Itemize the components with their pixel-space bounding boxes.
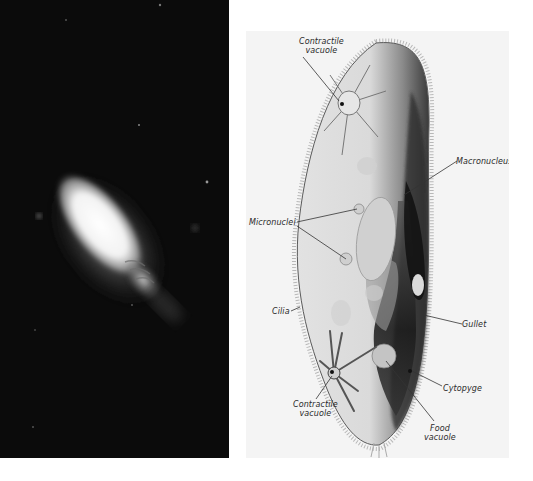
- label-cilia: Cilia: [272, 307, 290, 316]
- label-macronucleus: Macronucleus: [456, 157, 509, 166]
- label-micronuclei: Micronuclei: [249, 218, 296, 227]
- label-gullet: Gullet: [462, 320, 486, 329]
- labeled-diagram-panel: Contractile vacuole Macronucleus Micronu…: [246, 31, 509, 458]
- paramecium-drawing: [246, 31, 509, 458]
- photomicrograph-panel: [0, 0, 229, 458]
- paramecium-photo: [0, 0, 229, 458]
- cytopyge: [408, 369, 412, 373]
- label-food-vacuole: Food vacuole: [424, 424, 456, 442]
- label-cytopyge: Cytopyge: [443, 384, 482, 393]
- label-contractile-vacuole-top: Contractile vacuole: [299, 37, 344, 55]
- label-contractile-vacuole-bottom: Contractile vacuole: [293, 400, 338, 418]
